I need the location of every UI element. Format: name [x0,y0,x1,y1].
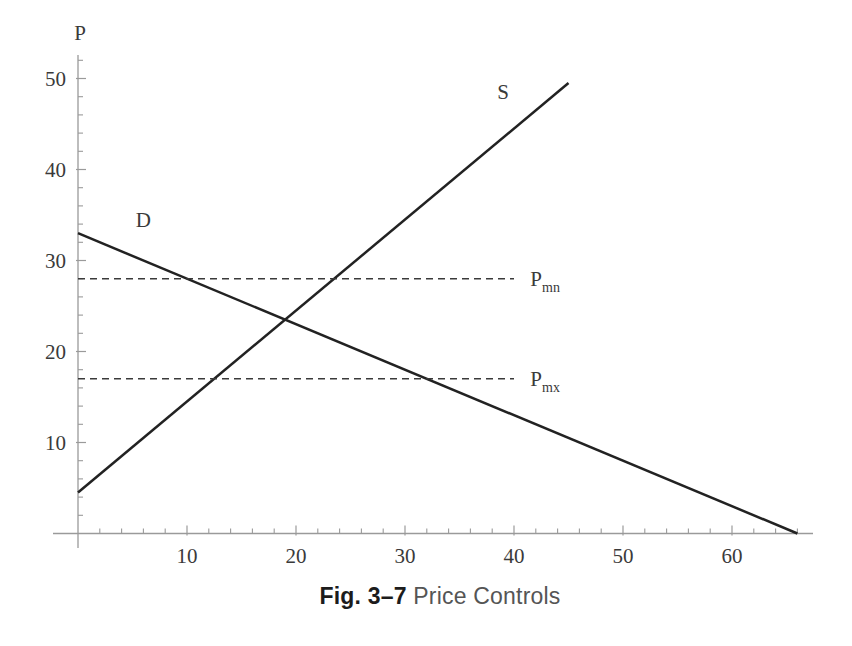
series-line-supply [78,83,569,493]
series-label-price-minimum: Pmn [530,267,560,295]
y-axis-label: P [74,21,86,45]
series-line-demand [78,233,797,533]
series-sublabel-price-minimum: mn [542,280,560,295]
y-tick-label: 20 [45,340,66,364]
caption-label: Fig. 3–7 [319,583,406,609]
series-label-price-maximum: Pmx [530,367,560,395]
caption-text: Price Controls [413,583,560,609]
x-tick-label: 50 [613,544,634,568]
x-tick-label: 20 [286,544,307,568]
y-tick-label: 30 [45,249,66,273]
y-tick-label: 40 [45,158,66,182]
x-tick-label: 60 [722,544,743,568]
x-tick-label: 40 [504,544,525,568]
plot-svg: 1020304050601020304050PSDPmnPmx [0,0,852,578]
y-tick-label: 10 [45,431,66,455]
series-label-supply: S [497,80,509,104]
figure-caption: Fig. 3–7 Price Controls [14,583,852,610]
x-tick-label: 30 [395,544,416,568]
series-label-demand: D [136,208,151,232]
series-sublabel-price-maximum: mx [542,380,560,395]
figure: 1020304050601020304050PSDPmnPmx Fig. 3–7… [0,0,852,646]
y-tick-label: 50 [45,67,66,91]
x-tick-label: 10 [177,544,198,568]
